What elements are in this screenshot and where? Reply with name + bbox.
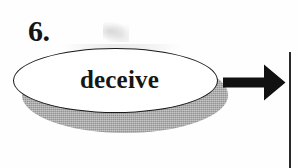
word-bubble: deceive <box>13 48 218 113</box>
item-number: 6. <box>28 16 50 46</box>
word-bubble-label: deceive <box>14 67 217 93</box>
answer-box-left-edge[interactable] <box>289 52 291 168</box>
right-arrow-icon <box>223 64 286 101</box>
scan-artifact <box>103 22 129 42</box>
worksheet-page: 6. deceive <box>0 0 298 168</box>
